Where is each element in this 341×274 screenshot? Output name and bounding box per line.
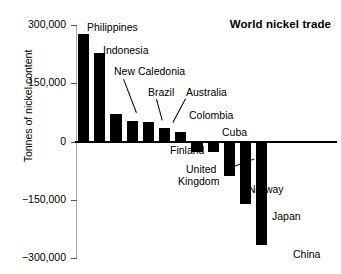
bar-label-cuba: Cuba bbox=[222, 127, 247, 139]
bar-cuba bbox=[175, 132, 186, 142]
bar-label-finland: Finland bbox=[170, 145, 204, 157]
bar-label-brazil: Brazil bbox=[148, 87, 174, 99]
bar-colombia bbox=[159, 128, 170, 142]
y-tick-label: 300,000 bbox=[4, 18, 66, 30]
bar-label-norway: Norway bbox=[248, 184, 284, 196]
bar-label-japan: Japan bbox=[272, 211, 301, 223]
bar-label-china: China bbox=[293, 249, 320, 261]
bar-label-kingdom: Kingdom bbox=[178, 176, 219, 188]
bar-label-indonesia: Indonesia bbox=[103, 45, 149, 57]
bar-new-caledonia bbox=[110, 114, 121, 141]
y-tick-label: −300,000 bbox=[4, 251, 66, 263]
bar-australia bbox=[143, 122, 154, 141]
bar-indonesia bbox=[94, 53, 105, 142]
y-tick-label: 0 bbox=[4, 135, 66, 147]
bar-label-united: United bbox=[186, 164, 216, 176]
bar-norway bbox=[224, 142, 235, 177]
bar-label-colombia: Colombia bbox=[189, 110, 233, 122]
y-tick-mark bbox=[71, 258, 77, 259]
y-tick-label: 150,000 bbox=[4, 76, 66, 88]
plot-area bbox=[77, 25, 339, 258]
bar-brazil bbox=[127, 121, 138, 141]
bar-philippines bbox=[78, 34, 89, 142]
bar-label-new-caledonia: New Caledonia bbox=[114, 66, 185, 78]
y-tick-label: −150,000 bbox=[4, 193, 66, 205]
bar-united-kingdom bbox=[208, 142, 219, 153]
chart-figure: World nickel trade Tonnes of nickel cont… bbox=[0, 0, 341, 274]
bar-label-philippines: Philippines bbox=[87, 22, 138, 34]
bar-label-australia: Australia bbox=[186, 87, 227, 99]
y-axis-label: Tonnes of nickel content bbox=[22, 26, 34, 186]
